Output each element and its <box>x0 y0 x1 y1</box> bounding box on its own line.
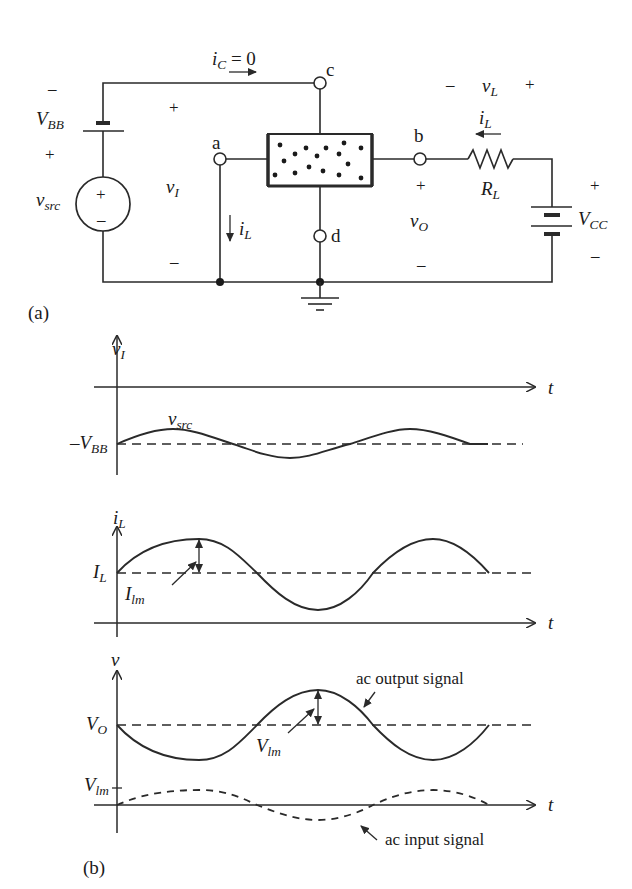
il-signal-curve <box>117 539 489 610</box>
vi-graph-t-label: t <box>548 378 553 397</box>
vi-graph-y-label: vI <box>112 339 125 358</box>
il-left-label: iL <box>239 219 252 238</box>
wire-rl-to-vcc <box>513 159 552 207</box>
vl-label: vL <box>482 76 498 95</box>
resistor-rl-icon <box>468 150 513 168</box>
il-dc-level-label: IL <box>93 562 107 581</box>
vlm-pointer-arrow <box>288 709 314 733</box>
part-a-label: (a) <box>28 303 49 322</box>
ac-input-callout-arrow <box>361 826 377 840</box>
rl-label: RL <box>481 179 500 198</box>
vo-minus-sign: – <box>417 256 426 273</box>
v-graph-y-label: v <box>111 650 119 669</box>
vlm-amplitude-label: Vlm <box>256 736 281 755</box>
terminal-a-label: a <box>212 133 220 152</box>
part-b-label: (b) <box>83 858 105 877</box>
ac-output-callout-arrow <box>364 692 375 707</box>
vl-plus-sign: + <box>525 76 535 93</box>
terminal-b-label: b <box>414 126 424 145</box>
vi-minus-sign: – <box>170 253 179 270</box>
vl-minus-sign: – <box>446 76 455 93</box>
ac-input-signal-label: ac input signal <box>385 831 484 848</box>
terminal-c-icon <box>314 77 326 89</box>
junction-dot-a-icon <box>216 278 224 286</box>
vo-dc-level-label: VO <box>86 714 107 733</box>
v-graph-t-label: t <box>548 795 553 814</box>
vbb-plus-sign: + <box>45 146 55 163</box>
ground-icon <box>301 282 339 310</box>
vsrc-curve-label: vsrc <box>168 409 192 428</box>
vcc-battery-icon <box>531 207 572 234</box>
terminal-c-label: c <box>326 60 334 79</box>
vo-label: vO <box>410 211 428 230</box>
vbb-battery-icon <box>83 123 124 131</box>
wire-top <box>103 83 314 122</box>
il-right-label: iL <box>479 108 492 127</box>
graph-v <box>94 671 535 840</box>
device-box-icon <box>268 134 372 186</box>
il-graph-y-label: iL <box>113 508 126 527</box>
terminal-d-icon <box>314 230 326 242</box>
graph-vi <box>94 336 535 475</box>
ac-output-signal-label: ac output signal <box>356 670 464 687</box>
terminal-a-icon <box>214 153 226 165</box>
vbb-minus-sign: – <box>48 80 57 97</box>
vlm-tick-label: Vlm <box>84 775 109 794</box>
graph-il <box>94 527 535 637</box>
vo-plus-sign: + <box>416 177 426 194</box>
ic-zero-label: iC = 0 <box>212 49 256 68</box>
vcc-plus-sign: + <box>590 177 600 194</box>
vsrc-plus-sign: + <box>96 186 106 203</box>
vi-label: vI <box>166 177 179 196</box>
vsrc-label: vsrc <box>36 190 60 209</box>
vcc-label: VCC <box>578 209 607 228</box>
terminal-b-icon <box>414 153 426 165</box>
neg-vbb-level-label: –VBB <box>70 433 107 452</box>
terminal-d-label: d <box>331 226 341 245</box>
ilm-amplitude-label: Ilm <box>125 584 145 603</box>
vsrc-minus-sign: – <box>97 211 106 228</box>
vbb-label: VBB <box>36 109 64 128</box>
vcc-minus-sign: – <box>591 247 600 264</box>
il-graph-t-label: t <box>548 613 553 632</box>
vi-plus-sign: + <box>169 99 179 116</box>
